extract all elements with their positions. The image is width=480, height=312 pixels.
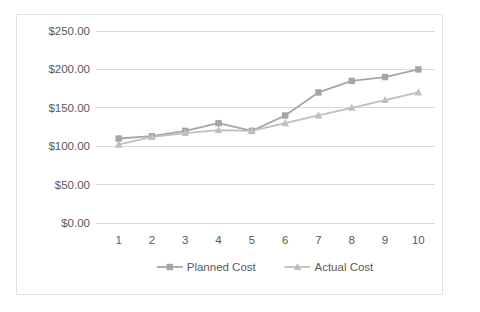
data-point-planned-cost-6 [282,112,288,118]
x-axis-tick-label: 5 [249,234,255,246]
data-point-planned-cost-4 [215,120,221,126]
legend-marker-planned-cost [167,264,173,270]
x-axis-tick-label: 4 [215,234,222,246]
y-axis-tick-label: $100.00 [48,140,90,152]
x-axis-tick-label: 9 [382,234,388,246]
data-point-planned-cost-8 [349,78,355,84]
legend-label-planned-cost: Planned Cost [187,261,257,273]
x-axis-tick-label: 2 [149,234,155,246]
x-axis-tick-label: 3 [182,234,188,246]
legend-label-actual-cost: Actual Cost [314,261,374,273]
data-point-planned-cost-7 [315,89,321,95]
x-axis-tick-label: 7 [315,234,321,246]
x-axis-tick-label: 1 [115,234,121,246]
chart-container: $0.00$50.00$100.00$150.00$200.00$250.001… [16,14,443,295]
y-axis-tick-label: $250.00 [48,25,90,37]
y-axis-tick-label: $50.00 [55,179,90,191]
y-axis-tick-label: $200.00 [48,63,90,75]
data-point-actual-cost-10 [415,88,423,95]
y-axis-tick-label: $0.00 [61,217,90,229]
series-line-actual-cost [119,92,419,144]
series-line-planned-cost [119,69,419,138]
x-axis-tick-label: 10 [412,234,425,246]
data-point-planned-cost-9 [382,74,388,80]
data-point-planned-cost-10 [415,66,421,72]
x-axis-tick-label: 8 [349,234,355,246]
y-axis-tick-label: $150.00 [48,102,90,114]
x-axis-tick-label: 6 [282,234,288,246]
line-chart-plot: $0.00$50.00$100.00$150.00$200.00$250.001… [17,15,442,294]
